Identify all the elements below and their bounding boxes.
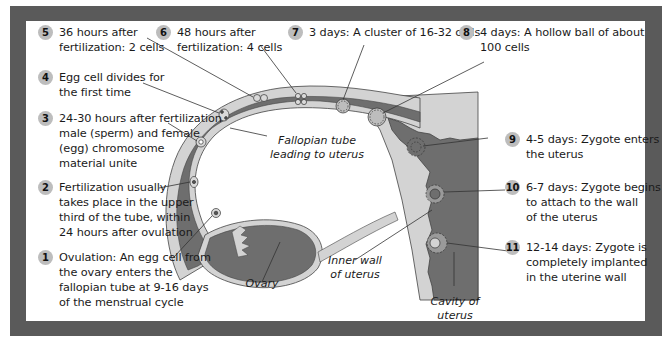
step-number-badge: 10 [505,180,520,195]
step-number-badge: 7 [288,25,303,40]
step-3: 3 24-30 hours after fertilization male (… [38,111,222,171]
step-10: 10 6-7 days: Zygote begins to attach to … [505,180,661,225]
step-1: 1 Ovulation: An egg cell from the ovary … [38,250,211,310]
step-5: 5 36 hours after fertilization: 2 cells [38,25,164,55]
zygote-enters-uterus [407,138,425,156]
step-9: 9 4-5 days: Zygote enters the uterus [505,132,659,162]
step-number-badge: 3 [38,111,53,126]
step-number-badge: 5 [38,25,53,40]
step-number-badge: 8 [459,25,474,40]
step-text: 4-5 days: Zygote enters the uterus [526,132,659,162]
step-8: 8 4 days: A hollow ball of about 100 cel… [459,25,644,55]
label-cavity: Cavity of uterus [420,295,490,323]
step-text: 24-30 hours after fertilization male (sp… [59,111,222,171]
zygote-attaching [426,185,444,203]
zygote-implanted [427,233,447,253]
step-6: 6 48 hours after fertilization: 4 cells [156,25,282,55]
step-2: 2 Fertilization usually takes place in t… [38,180,194,240]
step-number-badge: 4 [38,70,53,85]
step-text: Fertilization usually takes place in the… [59,180,194,240]
step-4: 4 Egg cell divides for the first time [38,70,164,100]
step-number-badge: 2 [38,180,53,195]
label-ovary: Ovary [240,277,284,291]
step-11: 11 12-14 days: Zygote is completely impl… [505,240,647,285]
label-fallopian-tube: Fallopian tube leading to uterus [262,134,372,162]
step-number-badge: 9 [505,132,520,147]
step-7: 7 3 days: A cluster of 16-32 cells [288,25,480,40]
step-text: 12-14 days: Zygote is completely implant… [526,240,647,285]
step-text: 36 hours after fertilization: 2 cells [59,25,164,55]
step-text: 4 days: A hollow ball of about 100 cells [480,25,644,55]
step-text: 48 hours after fertilization: 4 cells [177,25,282,55]
step-number-badge: 6 [156,25,171,40]
label-inner-wall: Inner wall of uterus [320,254,390,282]
step-number-badge: 11 [505,240,520,255]
blastocyst-stage [368,108,386,126]
egg-stage-1 [212,209,221,218]
step-text: Egg cell divides for the first time [59,70,164,100]
morula-stage [336,99,350,113]
step-text: Ovulation: An egg cell from the ovary en… [59,250,211,310]
step-text: 3 days: A cluster of 16-32 cells [309,25,480,40]
step-text: 6-7 days: Zygote begins to attach to the… [526,180,661,225]
step-number-badge: 1 [38,250,53,265]
